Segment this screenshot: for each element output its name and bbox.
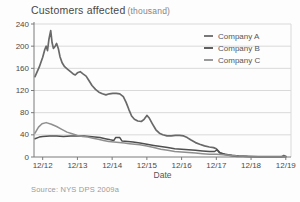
chart-figure: Customers affected(thousand) 04080120160… — [0, 0, 300, 202]
legend-label-company-b: Company B — [218, 44, 260, 53]
x-axis-title: Date — [154, 170, 172, 180]
x-tick-label: 12/19 — [276, 161, 297, 170]
x-tick-label: 12/15 — [137, 161, 158, 170]
y-tick-label: 80 — [20, 108, 29, 117]
y-tick-label: 0 — [25, 153, 30, 162]
legend: Company ACompany BCompany C — [204, 32, 260, 65]
legend-label-company-a: Company A — [218, 32, 260, 41]
y-tick-label: 40 — [20, 130, 29, 139]
legend-label-company-c: Company C — [218, 56, 260, 65]
x-tick-label: 12/18 — [241, 161, 262, 170]
y-tick-label: 160 — [16, 64, 30, 73]
x-tick-label: 12/13 — [67, 161, 88, 170]
source-note: Source: NYS DPS 2009a — [31, 185, 119, 194]
x-tick-label: 12/12 — [33, 161, 54, 170]
x-tick-label: 12/17 — [206, 161, 227, 170]
x-tick-label: 12/14 — [102, 161, 123, 170]
x-tick-label: 12/16 — [172, 161, 193, 170]
y-tick-label: 240 — [16, 20, 30, 29]
y-tick-label: 120 — [16, 86, 30, 95]
series-line-company-c — [35, 123, 286, 157]
line-chart-svg: 0408012016020024012/1212/1312/1412/1512/… — [0, 0, 300, 202]
series-line-company-b — [35, 136, 286, 157]
y-tick-label: 200 — [16, 42, 30, 51]
